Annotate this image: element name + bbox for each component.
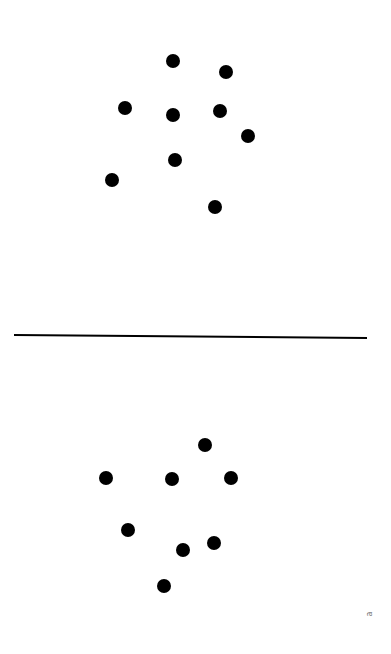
- dot: [157, 579, 171, 593]
- dot: [99, 471, 113, 485]
- dot: [224, 471, 238, 485]
- dot: [207, 536, 221, 550]
- figure-corner-label: a: [365, 612, 374, 617]
- dot: [198, 438, 212, 452]
- bottom-dot-panel: [0, 0, 391, 654]
- dot: [121, 523, 135, 537]
- dot: [165, 472, 179, 486]
- dot: [176, 543, 190, 557]
